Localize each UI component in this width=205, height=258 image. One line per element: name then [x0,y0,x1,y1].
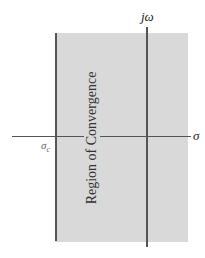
real-axis-label: σ [193,128,199,144]
region-label: Region of Convergence [84,72,100,205]
region-of-convergence-shading [55,33,188,242]
imaginary-axis [146,27,148,247]
boundary-subscript: c [46,145,50,154]
convergence-boundary-line [55,33,57,241]
boundary-label: σc [41,139,50,154]
real-axis [12,136,191,137]
imaginary-axis-label: jω [141,9,154,25]
